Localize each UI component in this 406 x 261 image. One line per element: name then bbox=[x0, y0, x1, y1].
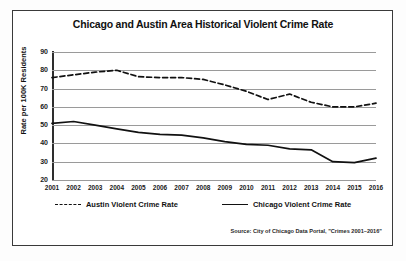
y-axis-tick-labels: 2030405060708090 bbox=[24, 52, 48, 180]
y-tick-label: 80 bbox=[28, 66, 48, 73]
y-tick-label: 20 bbox=[28, 176, 48, 183]
y-tick-label: 90 bbox=[28, 48, 48, 55]
y-tick-label: 60 bbox=[28, 103, 48, 110]
x-axis-tick-labels: 2001200220032004200520062007200820092010… bbox=[52, 184, 376, 196]
y-tick-label: 40 bbox=[28, 139, 48, 146]
series-line bbox=[52, 121, 376, 162]
solid-line-icon bbox=[222, 204, 248, 205]
y-tick-label: 70 bbox=[28, 85, 48, 92]
y-tick-label: 50 bbox=[28, 121, 48, 128]
legend-item-austin: Austin Violent Crime Rate bbox=[55, 200, 178, 209]
dashed-line-icon bbox=[55, 204, 81, 205]
series-line bbox=[52, 70, 376, 107]
source-note: Source: City of Chicago Data Portal, "Cr… bbox=[231, 228, 382, 234]
legend-label-austin: Austin Violent Crime Rate bbox=[86, 200, 178, 209]
chart-title: Chicago and Austin Area Historical Viole… bbox=[0, 18, 406, 30]
chart-legend: Austin Violent Crime Rate Chicago Violen… bbox=[0, 200, 406, 209]
legend-item-chicago: Chicago Violent Crime Rate bbox=[222, 200, 351, 209]
plot-svg bbox=[52, 52, 376, 180]
x-tick-label: 2016 bbox=[361, 184, 391, 191]
gridline bbox=[52, 180, 376, 181]
chart-figure: Chicago and Austin Area Historical Viole… bbox=[0, 0, 406, 261]
y-tick-label: 30 bbox=[28, 158, 48, 165]
legend-label-chicago: Chicago Violent Crime Rate bbox=[253, 200, 351, 209]
plot-area bbox=[52, 52, 376, 180]
